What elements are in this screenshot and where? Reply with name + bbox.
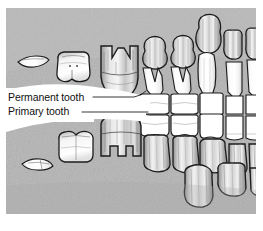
occlusal-primary-tooth-2	[171, 94, 198, 114]
primary-molar-crown-lower-center	[101, 115, 141, 156]
permanent-crown-upper-3	[196, 14, 221, 53]
primary-molar-crown-lower-left	[59, 131, 93, 162]
occlusal-primary-tooth-lower-3	[200, 114, 223, 138]
permanent-crown-upper-2	[171, 36, 195, 69]
erupted-tooth-upper-root-3	[198, 53, 216, 97]
primary-molar-crown-upper-left	[57, 52, 90, 82]
occlusal-primary-tooth-3	[200, 93, 223, 115]
erupted-tooth-upper-root-4	[226, 62, 242, 97]
occlusal-primary-tooth-lower-2	[171, 115, 198, 136]
permanent-crown-upper-4	[224, 30, 242, 59]
occlusal-primary-tooth-lower-4	[226, 116, 243, 140]
label-primary-tooth: Primary tooth	[8, 105, 69, 117]
dental-illustration-figure: Permanent tooth Primary tooth	[0, 0, 263, 231]
illustration-canvas: Permanent tooth Primary tooth	[0, 0, 263, 231]
tissue-shading-lower	[6, 182, 256, 214]
label-permanent-tooth: Permanent tooth	[8, 91, 84, 103]
occlusal-primary-tooth-4	[226, 96, 243, 114]
permanent-crown-lower-1	[144, 135, 170, 172]
permanent-crown-upper-1	[143, 37, 168, 70]
